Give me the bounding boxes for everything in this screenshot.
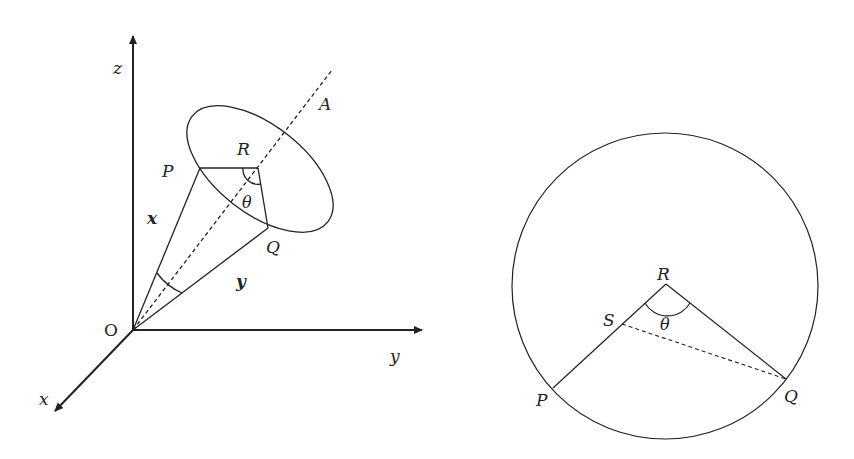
right-angle-theta-label: θ [660, 315, 670, 334]
diagram-canvas: z A R P x θ Q y O y x R S θ P Q [0, 0, 854, 459]
segment-RQ-right [666, 284, 786, 379]
point-P-label: P [161, 161, 174, 181]
origin-label: O [104, 320, 118, 340]
point-Q-label: Q [266, 237, 280, 257]
point-A-label: A [317, 94, 331, 114]
point-R-label: R [236, 139, 250, 159]
vector-y-label: y [235, 271, 247, 291]
segment-SQ-dashed [622, 324, 786, 379]
x-axis-label: x [39, 389, 49, 409]
right-point-P-label: P [535, 390, 548, 410]
right-point-Q-label: Q [784, 386, 798, 406]
right-figure: R S θ P Q [512, 133, 818, 439]
right-point-S-label: S [603, 310, 615, 330]
segment-RQ [258, 168, 268, 228]
angle-theta-label: θ [242, 193, 252, 212]
z-axis-label: z [112, 58, 123, 78]
left-figure: z A R P x θ Q y O y x [39, 36, 422, 411]
y-axis-label: y [389, 346, 400, 366]
x-axis [55, 330, 133, 411]
segment-RP [553, 284, 666, 388]
vector-x-OP [133, 168, 200, 330]
right-point-R-label: R [656, 264, 670, 284]
axis-OA-dashed [133, 70, 332, 330]
vector-x-label: x [146, 208, 158, 228]
vector-y-OQ [133, 228, 268, 330]
base-circle [512, 133, 818, 439]
